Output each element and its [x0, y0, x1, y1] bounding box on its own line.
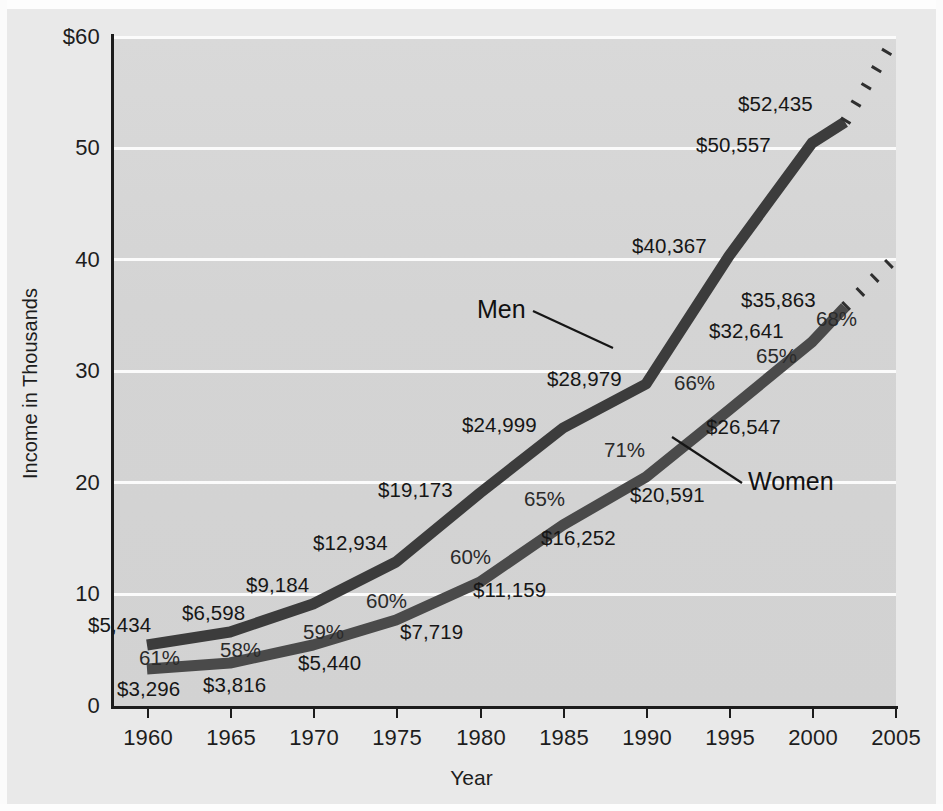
- men-data-label-1995: $40,367: [632, 234, 707, 258]
- women-line: [147, 307, 845, 669]
- women-percent-label-1965: 58%: [220, 638, 261, 662]
- women-data-label-1975: $7,719: [400, 620, 463, 644]
- women-percent-label-2000: 65%: [756, 344, 797, 368]
- women-data-label-1960: $3,296: [117, 677, 180, 701]
- men-data-label-1970: $9,184: [246, 573, 309, 597]
- men-data-label-1960: $5,434: [88, 613, 151, 637]
- men-data-label-2002: $52,435: [738, 92, 813, 116]
- men-data-label-1985: $24,999: [462, 413, 537, 437]
- women-percent-label-1975: 60%: [366, 589, 407, 613]
- men-leader-line: [533, 311, 613, 348]
- women-data-label-1990: $20,591: [630, 483, 705, 507]
- women-data-label-2002: $35,863: [741, 288, 816, 312]
- men-data-label-1965: $6,598: [182, 601, 245, 625]
- men-projection-line: [845, 38, 895, 122]
- women-data-label-1985: $16,252: [541, 526, 616, 550]
- men-data-label-1980: $19,173: [378, 478, 453, 502]
- women-data-label-1970: $5,440: [298, 651, 361, 675]
- women-leader-line: [672, 437, 742, 483]
- women-percent-label-1970: 59%: [303, 620, 344, 644]
- women-percent-label-1980: 60%: [450, 545, 491, 569]
- women-percent-label-1995: 66%: [674, 371, 715, 395]
- women-percent-label-1985: 65%: [524, 487, 565, 511]
- women-data-label-2000: $32,641: [709, 319, 784, 343]
- men-data-label-1975: $12,934: [313, 531, 388, 555]
- women-data-label-1980: $11,159: [473, 578, 546, 602]
- series-annotation-men: Men: [477, 295, 526, 324]
- chart-figure: $60 50 40 30 20 10 0 1960 1965 1970 1975…: [0, 0, 943, 811]
- men-data-label-2000: $50,557: [696, 133, 771, 157]
- women-projection-line: [845, 258, 895, 307]
- women-percent-label-1960: 61%: [139, 646, 180, 670]
- men-data-label-1990: $28,979: [547, 367, 622, 391]
- women-data-label-1995: $26,547: [706, 415, 781, 439]
- series-annotation-women: Women: [748, 467, 834, 496]
- women-percent-label-2002: 68%: [816, 307, 857, 331]
- women-data-label-1965: $3,816: [203, 673, 266, 697]
- women-percent-label-1990: 71%: [604, 438, 645, 462]
